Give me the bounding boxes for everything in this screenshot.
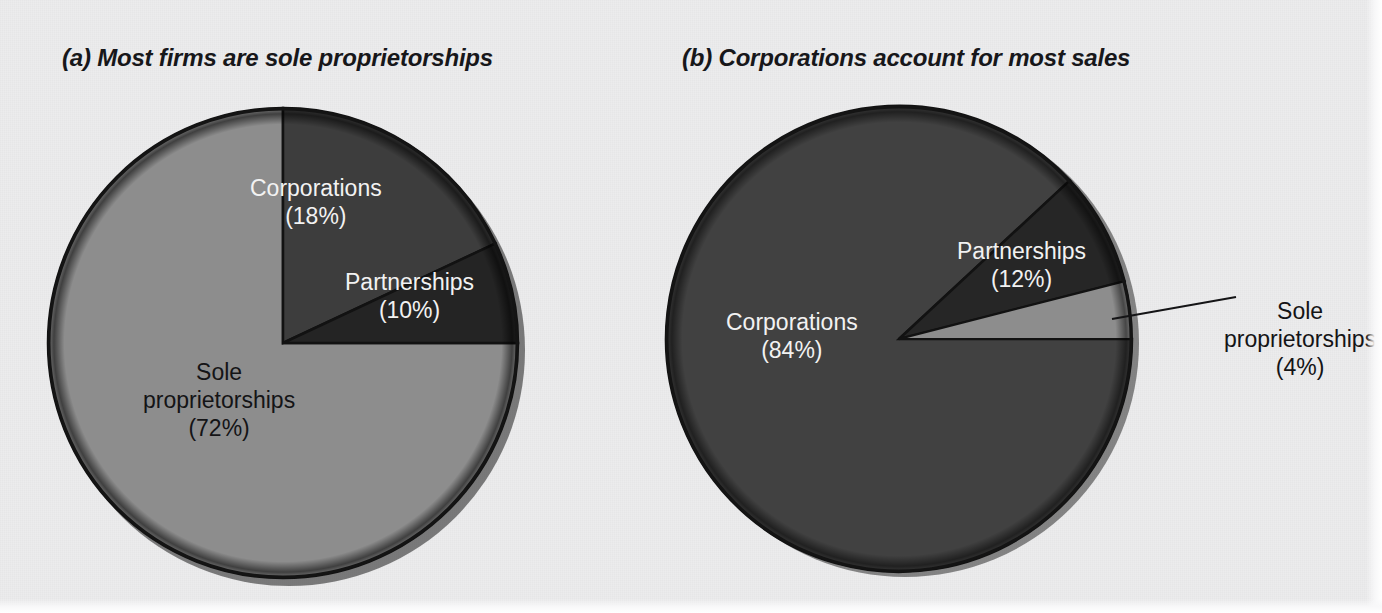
pie-b-label-partnerships-pct: (12%) <box>957 265 1086 293</box>
pie-b-label-sole-line1: Sole <box>1224 297 1376 325</box>
pie-a-label-partnerships-pct: (10%) <box>345 296 474 324</box>
pie-b-label-corporations-pct: (84%) <box>726 336 858 364</box>
pie-a-label-sole-line2: proprietorships <box>143 386 295 414</box>
pie-chart-a <box>38 98 538 598</box>
pie-b-label-sole-line2: proprietorships <box>1224 325 1376 353</box>
pie-b-label-sole-proprietorships: Sole proprietorships (4%) <box>1224 297 1376 381</box>
panel-a-title-text: Most firms are sole proprietorships <box>97 44 493 71</box>
pie-b-label-partnerships: Partnerships (12%) <box>957 237 1086 293</box>
pie-a-label-partnerships: Partnerships (10%) <box>345 268 474 324</box>
pie-b-label-corporations: Corporations (84%) <box>726 308 858 364</box>
figure-container: (a) Most firms are sole proprietorships <box>0 0 1382 613</box>
pie-a-label-partnerships-name: Partnerships <box>345 268 474 296</box>
pie-a-label-corporations: Corporations (18%) <box>250 174 382 230</box>
pie-a-svg <box>38 98 538 598</box>
pie-b-label-sole-pct: (4%) <box>1224 353 1376 381</box>
panel-a-tag: (a) <box>62 44 97 71</box>
panel-a-title: (a) Most firms are sole proprietorships <box>62 44 493 72</box>
pie-b-label-partnerships-name: Partnerships <box>957 237 1086 265</box>
panel-b-tag: (b) <box>682 44 719 71</box>
panel-b-title-text: Corporations account for most sales <box>719 44 1131 71</box>
pie-a-label-sole-pct: (72%) <box>143 414 295 442</box>
pie-a-label-corporations-name: Corporations <box>250 174 382 202</box>
panel-b-title: (b) Corporations account for most sales <box>682 44 1130 72</box>
pie-a-label-sole-line1: Sole <box>143 358 295 386</box>
page-edge-bottom <box>0 599 1382 613</box>
pie-b-label-corporations-name: Corporations <box>726 308 858 336</box>
pie-a-label-corporations-pct: (18%) <box>250 202 382 230</box>
pie-a-label-sole-proprietorships: Sole proprietorships (72%) <box>143 358 295 442</box>
